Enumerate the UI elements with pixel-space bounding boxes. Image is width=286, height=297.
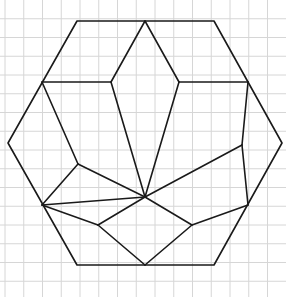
segment-line xyxy=(42,164,78,205)
segment-line xyxy=(111,21,145,82)
segment-line xyxy=(98,225,145,265)
hexagon-outline xyxy=(8,21,282,265)
segment-line xyxy=(145,145,242,197)
segment-line xyxy=(242,82,248,145)
geometry-figure: Hexagon on square grid paper subdivided … xyxy=(0,0,286,297)
segment-line xyxy=(42,205,98,225)
hexagon-tiling-diagram xyxy=(0,0,286,297)
segment-line xyxy=(42,82,78,164)
segment-line xyxy=(145,197,192,225)
segment-line xyxy=(145,225,192,265)
segment-line xyxy=(98,197,145,225)
interior-segments xyxy=(42,21,248,265)
segment-line xyxy=(242,145,248,205)
segment-line xyxy=(192,205,248,225)
segment-line xyxy=(111,82,145,197)
segment-line xyxy=(42,197,145,205)
